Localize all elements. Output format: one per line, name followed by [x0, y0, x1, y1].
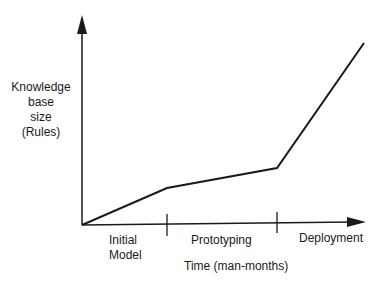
phase-label-prototyping: Prototyping — [191, 233, 252, 248]
phase-label-initial-model: Initial Model — [109, 233, 142, 263]
y-axis-label-line: size — [2, 110, 80, 125]
x-axis-arrow-icon — [347, 217, 366, 227]
knowledge-growth-line — [82, 43, 364, 225]
y-axis-label-line: Knowledge — [2, 80, 80, 95]
y-axis-label-line: base — [2, 95, 80, 110]
phase-label-line: Prototyping — [191, 233, 252, 248]
y-axis-label: Knowledge base size (Rules) — [2, 80, 80, 140]
y-axis-label-line: (Rules) — [2, 125, 80, 140]
phase-label-line: Model — [109, 248, 142, 263]
phase-label-deployment: Deployment — [299, 231, 363, 246]
x-axis-label-text: Time (man-months) — [184, 259, 288, 274]
x-axis — [82, 222, 352, 225]
phase-label-line: Deployment — [299, 231, 363, 246]
y-axis-arrow-icon — [77, 15, 87, 34]
phase-label-line: Initial — [109, 233, 142, 248]
